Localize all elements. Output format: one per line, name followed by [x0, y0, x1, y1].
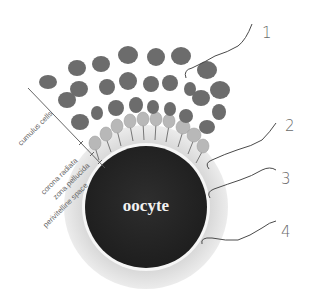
callout-1: 1	[262, 24, 272, 42]
callout-2: 2	[285, 117, 295, 135]
callout-4: 4	[281, 223, 291, 241]
sperm-2	[207, 123, 276, 169]
sperm-1	[185, 24, 252, 78]
label-cumulus-cells: cumulus cells	[16, 109, 54, 147]
oocyte-label: oocyte	[123, 196, 170, 215]
oocyte-diagram: cumulus cells corona radiata zona pelluc…	[0, 0, 313, 295]
callout-3: 3	[281, 170, 291, 188]
